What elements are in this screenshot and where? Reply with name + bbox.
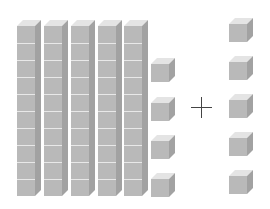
rod-cube-seam: [44, 162, 62, 163]
rod-cube-seam: [98, 162, 116, 163]
rod-cube-seam: [124, 128, 142, 129]
unit-cube-left-group: [151, 173, 175, 197]
rod-cube-seam: [98, 145, 116, 146]
cube-front-face: [229, 24, 247, 42]
plus-sign: +: [191, 97, 212, 118]
cube-front-face: [229, 100, 247, 118]
ten-rod: [124, 20, 148, 196]
ten-rod: [98, 20, 122, 196]
ten-rod: [44, 20, 68, 196]
rod-cube-seam: [71, 111, 89, 112]
cube-front-face: [229, 138, 247, 156]
rod-cube-seam: [44, 128, 62, 129]
cube-front-face: [151, 64, 169, 82]
rod-cube-seam: [71, 162, 89, 163]
unit-cube-right-group: [229, 94, 253, 118]
rod-cube-seam: [71, 145, 89, 146]
rod-side-face: [89, 20, 95, 196]
rod-cube-seam: [71, 128, 89, 129]
rod-cube-seam: [98, 179, 116, 180]
rod-cube-seam: [71, 43, 89, 44]
unit-cube-right-group: [229, 132, 253, 156]
rod-cube-seam: [98, 77, 116, 78]
rod-cube-seam: [44, 43, 62, 44]
rod-side-face: [62, 20, 68, 196]
rod-cube-seam: [124, 145, 142, 146]
rod-cube-seam: [17, 43, 35, 44]
rod-cube-seam: [17, 94, 35, 95]
rod-cube-seam: [17, 179, 35, 180]
rod-cube-seam: [71, 60, 89, 61]
rod-cube-seam: [124, 179, 142, 180]
cube-front-face: [151, 179, 169, 197]
ten-rod: [17, 20, 41, 196]
ten-rod: [71, 20, 95, 196]
rod-side-face: [142, 20, 148, 196]
unit-cube-left-group: [151, 58, 175, 82]
rod-cube-seam: [44, 145, 62, 146]
rod-cube-seam: [71, 179, 89, 180]
rod-cube-seam: [124, 60, 142, 61]
rod-cube-seam: [44, 60, 62, 61]
unit-cube-right-group: [229, 18, 253, 42]
unit-cube-right-group: [229, 170, 253, 194]
cube-front-face: [229, 62, 247, 80]
rod-cube-seam: [124, 162, 142, 163]
rod-cube-seam: [124, 111, 142, 112]
rod-cube-seam: [98, 43, 116, 44]
rod-cube-seam: [124, 43, 142, 44]
rod-cube-seam: [17, 77, 35, 78]
rod-side-face: [35, 20, 41, 196]
cube-front-face: [151, 103, 169, 121]
rod-cube-seam: [17, 128, 35, 129]
rod-cube-seam: [98, 128, 116, 129]
rod-cube-seam: [44, 94, 62, 95]
rod-cube-seam: [71, 77, 89, 78]
rod-cube-seam: [17, 111, 35, 112]
rod-side-face: [116, 20, 122, 196]
rod-cube-seam: [17, 60, 35, 61]
plus-vertical-stroke: [201, 97, 202, 118]
rod-cube-seam: [71, 94, 89, 95]
rod-cube-seam: [124, 94, 142, 95]
unit-cube-left-group: [151, 135, 175, 159]
rod-cube-seam: [44, 77, 62, 78]
unit-cube-right-group: [229, 56, 253, 80]
rod-cube-seam: [44, 111, 62, 112]
rod-cube-seam: [17, 162, 35, 163]
rod-cube-seam: [98, 60, 116, 61]
cube-front-face: [151, 141, 169, 159]
cube-front-face: [229, 176, 247, 194]
rod-cube-seam: [17, 145, 35, 146]
rod-cube-seam: [98, 94, 116, 95]
rod-cube-seam: [124, 77, 142, 78]
rod-cube-seam: [98, 111, 116, 112]
rod-cube-seam: [44, 179, 62, 180]
unit-cube-left-group: [151, 97, 175, 121]
